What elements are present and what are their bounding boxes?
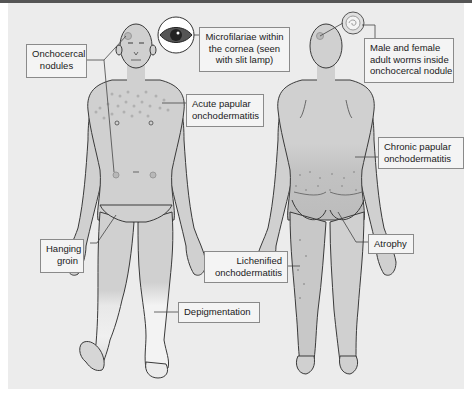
label-line: Onchocercal bbox=[32, 48, 81, 60]
label-atrophy: Atrophy bbox=[368, 234, 414, 254]
label-line: groin bbox=[46, 255, 78, 267]
label-line: Chronic papular bbox=[384, 141, 458, 153]
label-male-female-worms: Male and female adult worms inside oncho… bbox=[364, 38, 454, 83]
label-line: Depigmentation bbox=[184, 306, 254, 318]
label-line: onchodermatitis bbox=[192, 110, 258, 122]
label-microfilariae-cornea: Microfilariae within the cornea (seen wi… bbox=[199, 27, 290, 72]
label-line: with slit lamp) bbox=[205, 54, 284, 66]
label-line: Male and female bbox=[370, 42, 448, 54]
label-line: onchodermatitis bbox=[210, 267, 282, 279]
label-line: adult worms inside bbox=[370, 54, 448, 66]
label-acute-papular: Acute papular onchodermatitis bbox=[186, 94, 264, 127]
label-line: onchodermatitis bbox=[384, 153, 458, 165]
label-line: Hanging bbox=[46, 243, 78, 255]
label-line: Lichenified bbox=[210, 255, 282, 267]
front-figure bbox=[66, 24, 206, 378]
label-line: Atrophy bbox=[374, 238, 408, 250]
eye-icon bbox=[158, 17, 194, 53]
label-depigmentation: Depigmentation bbox=[178, 302, 260, 323]
label-line: nodules bbox=[32, 60, 81, 72]
label-onchocercal-nodules: Onchocercal nodules bbox=[26, 44, 87, 78]
label-line: Acute papular bbox=[192, 98, 258, 110]
label-lichenified: Lichenified onchodermatitis bbox=[204, 251, 288, 283]
label-hanging-groin: Hanging groin bbox=[40, 239, 84, 273]
label-line: the cornea (seen bbox=[205, 43, 284, 55]
label-line: onchocercal nodule bbox=[370, 65, 448, 77]
label-line: Microfilariae within bbox=[205, 31, 284, 43]
worm-nodule-icon bbox=[342, 12, 364, 34]
label-chronic-papular: Chronic papular onchodermatitis bbox=[378, 137, 464, 169]
